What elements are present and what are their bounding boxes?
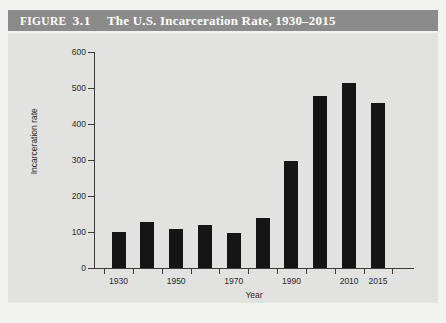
y-axis-tick-mark xyxy=(88,88,94,89)
bar-2010 xyxy=(342,83,356,268)
x-axis-tick-mark xyxy=(133,269,134,274)
x-axis-tick-mark xyxy=(104,269,105,274)
plot-area: 0100200300400500600 19301950197019902010… xyxy=(8,33,438,303)
bar-1970 xyxy=(227,233,241,268)
bar-1960 xyxy=(198,225,212,268)
x-axis-tick-label: 1970 xyxy=(216,277,252,286)
x-axis-tick-mark xyxy=(364,269,365,274)
y-axis-title: Incarceration rate xyxy=(30,86,39,196)
bar-1980 xyxy=(256,218,270,268)
x-axis-tick-mark xyxy=(306,269,307,274)
x-axis-line xyxy=(94,268,414,269)
figure-number: 3.1 xyxy=(73,13,91,29)
y-axis-tick-label: 400 xyxy=(46,120,86,129)
figure-title-bar: Figure 3.1 The U.S. Incarceration Rate, … xyxy=(8,10,438,31)
x-axis-tick-mark xyxy=(335,269,336,274)
x-axis-tick-mark xyxy=(191,269,192,274)
y-axis-line xyxy=(94,52,95,269)
x-axis-title: Year xyxy=(94,291,414,300)
x-axis-tick-label: 1950 xyxy=(158,277,194,286)
y-axis-tick-label: 600 xyxy=(46,48,86,57)
x-axis-tick-label: 2015 xyxy=(360,277,396,286)
y-axis-tick-label: 100 xyxy=(46,228,86,237)
y-axis-tick-mark xyxy=(88,160,94,161)
x-axis-tick-label: 1930 xyxy=(101,277,137,286)
bar-1950 xyxy=(169,229,183,268)
y-axis-tick-mark xyxy=(88,232,94,233)
y-axis-tick-mark xyxy=(88,268,94,269)
x-axis-tick-mark xyxy=(392,269,393,274)
chart-panel: 0100200300400500600 19301950197019902010… xyxy=(8,33,438,303)
x-axis-tick-mark xyxy=(219,269,220,274)
bar-1940 xyxy=(140,222,154,268)
y-axis-tick-label: 200 xyxy=(46,192,86,201)
figure-title: The U.S. Incarceration Rate, 1930–2015 xyxy=(107,13,336,29)
figure-container: Figure 3.1 The U.S. Incarceration Rate, … xyxy=(0,0,446,323)
bar-1990 xyxy=(284,161,298,268)
y-axis-tick-mark xyxy=(88,124,94,125)
y-axis-tick-mark xyxy=(88,52,94,53)
y-axis-tick-label: 500 xyxy=(46,84,86,93)
bar-1930 xyxy=(112,232,126,268)
bar-2000 xyxy=(313,96,327,268)
x-axis-tick-label: 1990 xyxy=(273,277,309,286)
bar-2015 xyxy=(371,103,385,268)
y-axis-tick-label: 0 xyxy=(46,264,86,273)
x-axis-tick-mark xyxy=(248,269,249,274)
x-axis-tick-mark xyxy=(277,269,278,274)
figure-label: Figure xyxy=(20,15,67,27)
y-axis-tick-label: 300 xyxy=(46,156,86,165)
y-axis-tick-mark xyxy=(88,196,94,197)
x-axis-tick-mark xyxy=(162,269,163,274)
